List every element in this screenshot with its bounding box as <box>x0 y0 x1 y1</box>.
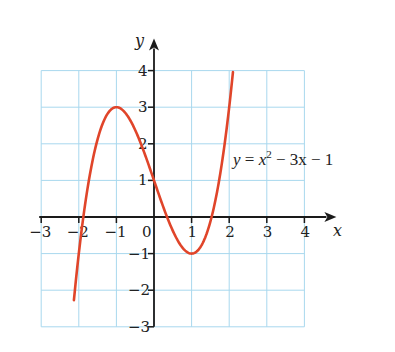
x-tick-label: 2 <box>225 223 235 241</box>
x-tick-label: −3 <box>29 223 51 241</box>
y-tick-label: 1 <box>138 171 148 189</box>
y-axis-label: y <box>134 31 145 50</box>
equation-equals: = <box>241 150 259 169</box>
equation-label: y = x2 − 3x − 1 <box>231 148 333 169</box>
equation-y: y <box>231 150 241 169</box>
equation-rest: − 3x − 1 <box>272 150 334 169</box>
y-tick-label: 4 <box>138 62 148 80</box>
y-tick-label: 3 <box>138 98 148 116</box>
x-tick-label: 3 <box>263 223 273 241</box>
tick-labels: −3−2−101234−3−2−11234 <box>29 62 310 336</box>
x-axis-label: x <box>333 221 342 240</box>
y-tick-label: −1 <box>128 245 150 263</box>
x-tick-label: 0 <box>142 223 152 241</box>
x-tick-label: −2 <box>67 223 89 241</box>
y-tick-label: −3 <box>128 318 150 336</box>
y-tick-label: −2 <box>128 281 150 299</box>
x-tick-label: 1 <box>188 223 198 241</box>
chart: −3−2−101234−3−2−11234 x y y = x2 − 3x − … <box>0 0 395 352</box>
grid-lines <box>41 71 304 327</box>
axes <box>39 39 336 327</box>
x-tick-label: −1 <box>104 223 126 241</box>
x-tick-label: 4 <box>300 223 310 241</box>
